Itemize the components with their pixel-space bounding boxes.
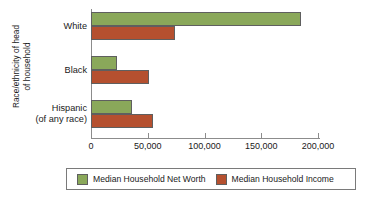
value-axis-line — [91, 138, 320, 139]
legend-swatch-net-worth — [77, 174, 88, 185]
x-tick-mark-2 — [205, 133, 206, 139]
chart-legend: Median Household Net Worth Median Househ… — [66, 168, 356, 190]
x-tick-mark-3 — [261, 133, 262, 139]
x-tick-mark-4 — [318, 133, 319, 139]
bar-hispanic-income — [91, 114, 153, 128]
bar-white-income — [91, 26, 175, 40]
category-label-black: Black — [0, 65, 87, 76]
bar-white-net-worth — [91, 12, 301, 26]
legend-entry-income: Median Household Income — [216, 174, 334, 185]
bar-black-net-worth — [91, 56, 117, 70]
bar-hispanic-net-worth — [91, 100, 132, 114]
legend-swatch-income — [216, 174, 227, 185]
legend-label-net-worth: Median Household Net Worth — [93, 174, 206, 184]
legend-label-income: Median Household Income — [232, 174, 334, 184]
category-label-hispanic: Hispanic (of any race) — [0, 103, 87, 125]
legend-entry-net-worth: Median Household Net Worth — [77, 174, 206, 185]
x-tick-label-4: 200,000 — [283, 141, 353, 151]
bar-chart: Race/ethnicity of head of household Whit… — [0, 0, 369, 203]
category-label-white: White — [0, 21, 87, 32]
x-tick-mark-1 — [148, 133, 149, 139]
x-tick-mark-0 — [91, 133, 92, 139]
bar-black-income — [91, 70, 149, 84]
plot-area — [91, 10, 318, 138]
